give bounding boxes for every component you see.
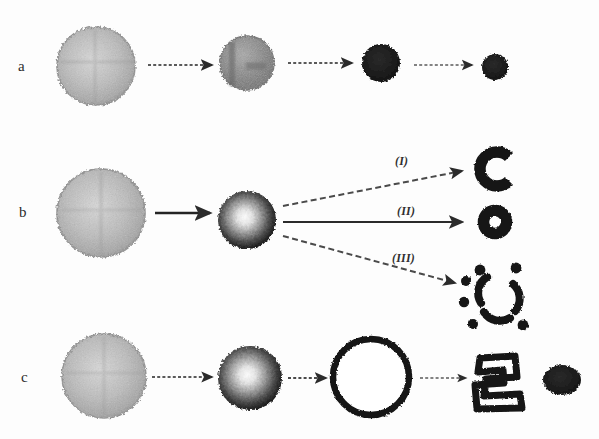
branch-arrow-III <box>283 236 455 283</box>
figure-graphics <box>0 0 599 439</box>
product-c-shape-particle <box>480 152 509 186</box>
figure-canvas: a b c (I) (II) (III) <box>0 0 599 439</box>
row-c-stage-dense-blob <box>543 365 581 395</box>
product-ring-particle <box>484 211 507 234</box>
row-c-stage-core-shell-sphere <box>218 346 282 410</box>
row-a-group <box>57 27 508 105</box>
product-fragmented-ring-particle <box>459 263 529 331</box>
row-a-stage-dark-particle <box>362 44 400 82</box>
row-c-stage-hollow-ring <box>333 339 409 415</box>
row-b-group <box>57 152 528 330</box>
row-a-arrows <box>148 63 472 65</box>
branch-arrow-I <box>283 171 462 206</box>
row-c-arrows <box>152 377 466 378</box>
row-c-group <box>62 334 581 418</box>
row-c-stage-collapsed-shell <box>475 356 522 409</box>
row-b-stage-core-shell-sphere <box>218 191 276 249</box>
row-a-stage-small-dark-particle <box>482 54 508 80</box>
